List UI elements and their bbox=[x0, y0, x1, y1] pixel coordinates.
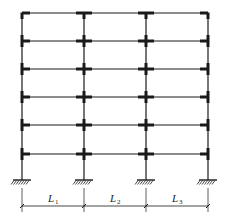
span-label-2: L bbox=[109, 192, 116, 204]
span-label-1: L bbox=[47, 192, 54, 204]
span-label-3: L bbox=[171, 192, 178, 204]
frame-members bbox=[22, 13, 208, 180]
span-subscript-2: 2 bbox=[117, 198, 121, 206]
frame-diagram: L1L2L3 bbox=[0, 0, 227, 222]
rigid-joints bbox=[22, 13, 208, 161]
span-subscript-1: 1 bbox=[55, 198, 59, 206]
span-subscript-3: 3 bbox=[179, 198, 183, 206]
fixed-support-icon bbox=[135, 180, 155, 185]
fixed-support-icon bbox=[11, 180, 31, 185]
fixed-supports bbox=[11, 180, 217, 185]
fixed-support-icon bbox=[73, 180, 93, 185]
fixed-support-icon bbox=[197, 180, 217, 185]
span-dimensions: L1L2L3 bbox=[20, 188, 210, 212]
